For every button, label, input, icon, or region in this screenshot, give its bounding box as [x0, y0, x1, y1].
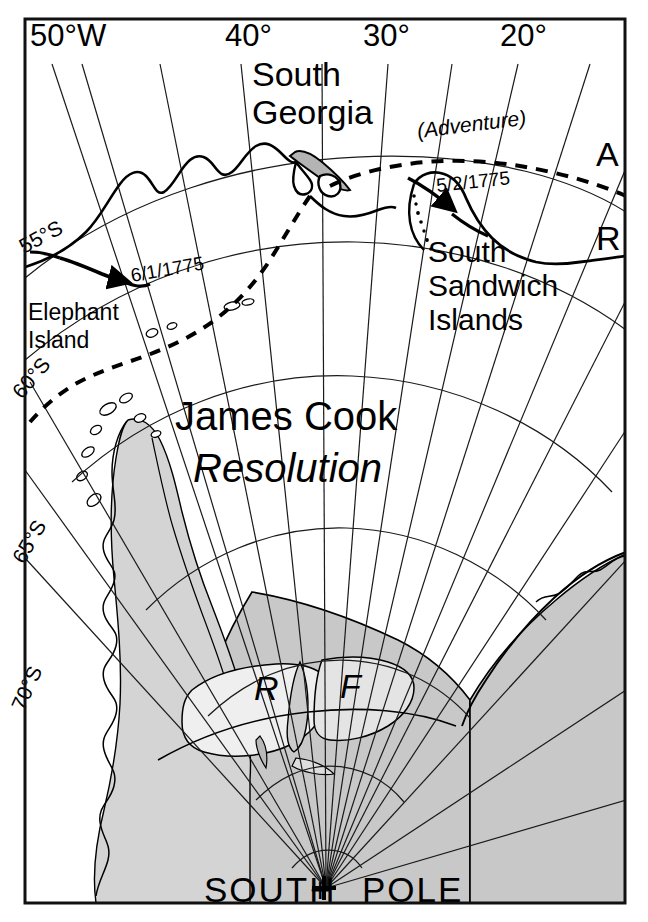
adventure-track-letter: A [596, 135, 619, 173]
south-georgia-label-line: Georgia [252, 93, 373, 131]
filchner-ice-shelf-letter: F [340, 667, 363, 705]
elephant-island-label-line: Elephant [28, 299, 119, 325]
elephant-island-label-line: Island [28, 327, 89, 353]
ronne-ice-shelf-letter: R [254, 669, 279, 707]
longitude-label: 20° [500, 18, 547, 53]
south-sandwich-label-line: South [428, 235, 506, 268]
south-sandwich-label-line: Islands [428, 303, 523, 336]
longitude-label: 50°W [30, 18, 107, 53]
primary-ship-label: Resolution [193, 446, 382, 490]
longitude-label: 40° [225, 18, 272, 53]
south-georgia-label-line: South [252, 55, 341, 93]
south-georgia-small-isle [318, 174, 340, 196]
resolution-track-letter: R [596, 219, 621, 257]
commander-label: James Cook [175, 394, 398, 438]
longitude-label: 30° [363, 18, 410, 53]
map-canvas: 50°W 40° 30° 20° 55°S 60°S 65°S 70°S Sou… [0, 0, 648, 922]
south-sandwich-label-line: Sandwich [428, 269, 558, 302]
expedition-map-figure: 50°W 40° 30° 20° 55°S 60°S 65°S 70°S Sou… [0, 0, 648, 922]
